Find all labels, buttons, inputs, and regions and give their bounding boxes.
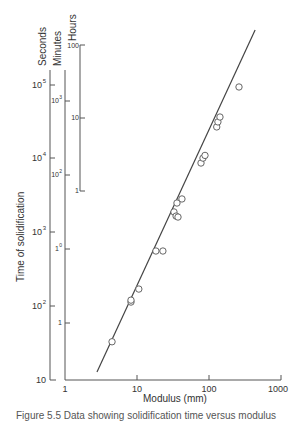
data-point	[179, 196, 185, 202]
svg-text:1: 1	[75, 187, 79, 194]
data-point	[160, 248, 166, 254]
x-axis-title: Modulus (mm)	[143, 393, 207, 404]
data-point	[109, 339, 115, 345]
svg-text:1: 1	[58, 319, 62, 326]
svg-text:10: 10	[32, 227, 42, 237]
svg-text:10: 10	[32, 301, 42, 311]
svg-text:10: 10	[32, 80, 42, 90]
svg-text:10: 10	[36, 375, 46, 385]
hours-axis-title: Hours	[67, 14, 78, 41]
plot-area	[97, 30, 255, 372]
svg-text:0: 0	[59, 242, 62, 248]
data-point	[202, 152, 208, 158]
data-point	[175, 214, 181, 220]
data-point	[128, 297, 134, 303]
data-point	[236, 84, 242, 90]
data-point	[153, 248, 159, 254]
svg-text:3: 3	[43, 225, 47, 231]
minutes-tick-labels: 1 1 0 10 2 10 3	[51, 94, 62, 326]
svg-text:100: 100	[201, 384, 216, 394]
data-point	[217, 114, 223, 120]
hours-tick-labels: 1 10 100	[67, 42, 79, 194]
svg-text:2: 2	[59, 168, 62, 174]
svg-text:1000: 1000	[268, 384, 288, 394]
figure-caption: Figure 5.5 Data showing solidification t…	[16, 410, 276, 421]
svg-text:1: 1	[62, 384, 67, 394]
data-point	[136, 286, 142, 292]
minutes-axis-title: Minutes	[52, 31, 63, 66]
svg-text:10: 10	[32, 153, 42, 163]
axes	[50, 45, 281, 380]
svg-text:10: 10	[51, 97, 59, 104]
svg-text:100: 100	[67, 42, 79, 49]
seconds-tick-labels: 10 10 2 10 3 10 4 10 5	[32, 78, 47, 385]
seconds-axis-title: Seconds	[37, 27, 48, 66]
svg-text:3: 3	[59, 94, 62, 100]
svg-text:2: 2	[43, 299, 47, 305]
svg-text:5: 5	[43, 78, 47, 84]
svg-text:10: 10	[132, 384, 142, 394]
svg-text:4: 4	[43, 151, 47, 157]
svg-text:10: 10	[71, 114, 79, 121]
svg-text:10: 10	[51, 171, 59, 178]
y-axis-title: Time of solidification	[15, 192, 26, 282]
